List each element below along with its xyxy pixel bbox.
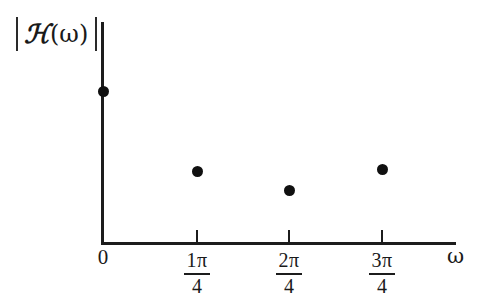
data-point-omega-pi-4 <box>192 166 203 177</box>
fraction-denominator: 4 <box>377 276 387 297</box>
tick-mark-3pi-over-4 <box>381 230 383 243</box>
x-tick-label-pi-over-4: 1π 4 <box>170 250 224 297</box>
y-axis-label: ℋ (ω) <box>16 17 97 51</box>
fraction-numerator: 3π <box>371 250 392 271</box>
tick-mark-2pi-over-4 <box>288 230 290 243</box>
data-point-omega-3pi-4 <box>377 164 388 175</box>
data-point-omega-0 <box>98 86 109 97</box>
fraction-denominator: 4 <box>284 276 294 297</box>
x-axis-label: ω <box>447 246 464 267</box>
x-tick-label-2pi-over-4: 2π 4 <box>262 250 316 297</box>
fraction-numerator: 1π <box>186 250 207 271</box>
x-axis-line <box>101 242 456 245</box>
fraction-numerator: 2π <box>278 250 299 271</box>
y-axis-line <box>101 22 104 245</box>
x-tick-label-3pi-over-4: 3π 4 <box>355 250 409 297</box>
tick-mark-pi-over-4 <box>196 230 198 243</box>
script-h-symbol: ℋ <box>18 21 50 47</box>
fraction-denominator: 4 <box>192 276 202 297</box>
x-tick-label-zero: 0 <box>88 247 118 268</box>
data-point-omega-2pi-4 <box>284 185 295 196</box>
omega-argument: (ω) <box>50 22 95 46</box>
magnitude-spectrum-figure: ℋ (ω) 0 1π 4 2π 4 3π 4 ω <box>0 0 486 304</box>
absolute-value-bar-right-icon <box>95 17 97 51</box>
